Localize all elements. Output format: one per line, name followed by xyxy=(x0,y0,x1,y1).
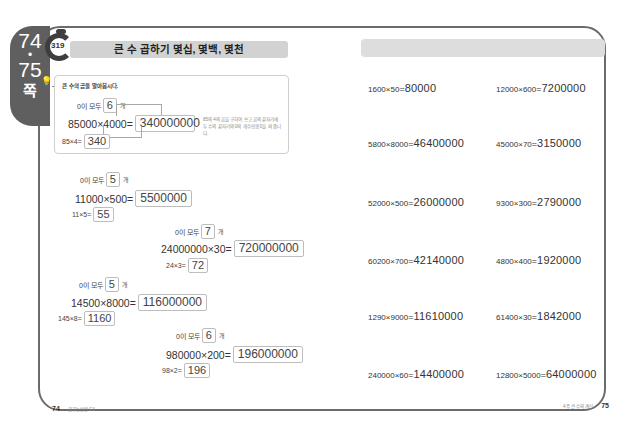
answer-item: 1290×9000=11610000 xyxy=(368,306,463,324)
result-box[interactable]: 720000000 xyxy=(234,240,304,257)
count-unit: 개 xyxy=(218,227,224,236)
zero-count-box[interactable]: 7 xyxy=(201,224,215,239)
example-result-box[interactable]: 340000000 xyxy=(135,115,195,132)
zero-count-box[interactable]: 5 xyxy=(105,277,119,292)
zero-count-box[interactable]: 6 xyxy=(103,98,117,113)
answer-lhs: 1600×50 xyxy=(368,85,399,94)
answer-lhs: 45000×70 xyxy=(496,140,532,149)
zero-count-label: 0이 모두 xyxy=(77,101,101,111)
answer-lhs: 12000×600 xyxy=(496,85,536,94)
answer-rhs: 11610000 xyxy=(414,310,464,322)
count-unit: 개 xyxy=(122,280,128,289)
zero-count-box[interactable]: 6 xyxy=(202,328,216,343)
problem-2-base-row: 24×3= 72 xyxy=(166,258,210,273)
answer-lhs: 5800×8000 xyxy=(368,140,408,149)
result-box[interactable]: 5500000 xyxy=(135,190,192,207)
footer-right: 4주 큰 수의 계산 75 xyxy=(563,402,609,409)
answer-rhs: 80000 xyxy=(405,82,437,94)
problem-expression: 24000000×30= xyxy=(161,243,232,255)
answer-item: 5800×8000=46400000 xyxy=(368,133,464,151)
problem-3-base-row: 145×8= 1160 xyxy=(58,311,117,326)
problem-1-base-row: 11×5= 55 xyxy=(72,207,116,222)
chapter-title: 4주 큰 수의 계산 xyxy=(563,404,593,409)
count-unit: 개 xyxy=(219,331,225,340)
answer-lhs: 61400×30 xyxy=(496,313,532,322)
left-page-number: 74 xyxy=(52,405,60,412)
zero-count-box[interactable]: 5 xyxy=(106,172,120,187)
answer-lhs: 240000×60 xyxy=(368,371,408,380)
answer-rhs: 1842000 xyxy=(537,310,581,322)
answer-item: 60200×700=42140000 xyxy=(368,250,464,268)
guide-prompt: 큰 수의 곱을 알아봅시다. xyxy=(62,82,118,90)
lesson-number: 319 xyxy=(51,41,64,50)
count-unit: 개 xyxy=(123,175,129,184)
answer-rhs: 26000000 xyxy=(414,196,465,208)
guide-note: 85와 4의 곱을 구하여 쓰고 곱의 끝자리에 두 수의 끝자리의 0의 개수… xyxy=(203,116,283,137)
answer-rhs: 64000000 xyxy=(546,368,597,380)
problem-expression: 11000×500= xyxy=(75,193,133,205)
answer-lhs: 12800×5000 xyxy=(496,371,541,380)
answer-rhs: 46400000 xyxy=(414,137,465,149)
base-expression: 145×8= xyxy=(58,315,82,322)
problem-4-expression-row: 980000×200= 196000000 xyxy=(166,346,305,363)
answer-lhs: 9300×300 xyxy=(496,199,532,208)
example-base-result-box[interactable]: 340 xyxy=(84,134,110,149)
base-expression: 24×3= xyxy=(166,262,186,269)
answer-item: 9300×300=2790000 xyxy=(496,192,581,210)
answer-item: 240000×60=14400000 xyxy=(368,364,464,382)
answer-item: 4800×400=1920000 xyxy=(496,250,581,268)
zero-count-label: 0이 모두 xyxy=(79,280,103,290)
answer-rhs: 2790000 xyxy=(537,196,581,208)
problem-3-zero-row: 0이 모두 5 개 xyxy=(79,277,128,292)
problem-2-expression-row: 24000000×30= 720000000 xyxy=(161,240,306,257)
result-box[interactable]: 196000000 xyxy=(233,346,303,363)
answer-lhs: 60200×700 xyxy=(368,257,408,266)
answer-item: 52000×500=26000000 xyxy=(368,192,464,210)
base-expression: 11×5= xyxy=(72,211,91,218)
zero-count-label: 0이 모두 xyxy=(176,331,200,341)
problem-4-zero-row: 0이 모두 6 개 xyxy=(176,328,225,343)
example-base-row: 85×4= 340 xyxy=(62,134,112,149)
problem-1-expression-row: 11000×500= 5500000 xyxy=(75,190,194,207)
problem-1-zero-row: 0이 모두 5 개 xyxy=(80,172,129,187)
lesson-badge: 319 xyxy=(45,33,73,61)
problem-2-zero-row: 0이 모두 7 개 xyxy=(175,224,224,239)
result-box[interactable]: 116000000 xyxy=(138,294,207,311)
answer-lhs: 4800×400 xyxy=(496,257,532,266)
answer-item: 45000×70=3150000 xyxy=(496,133,581,151)
right-page-number: 75 xyxy=(601,402,609,409)
base-result-box[interactable]: 196 xyxy=(184,363,210,378)
answer-rhs: 1920000 xyxy=(537,254,581,266)
right-title-bar xyxy=(361,39,605,57)
base-expression: 98×2= xyxy=(162,367,182,374)
answer-lhs: 52000×500 xyxy=(368,199,408,208)
lesson-title: 큰 수 곱하기 몇십, 몇백, 몇천 xyxy=(70,41,288,58)
zero-count-label: 0이 모두 xyxy=(175,227,199,237)
zero-count-label: 0이 모두 xyxy=(80,175,104,185)
answer-item: 12800×5000=64000000 xyxy=(496,364,597,382)
base-result-box[interactable]: 55 xyxy=(93,207,113,222)
problem-4-base-row: 98×2= 196 xyxy=(162,363,212,378)
badge-cap-icon xyxy=(56,29,66,34)
base-result-box[interactable]: 1160 xyxy=(84,311,116,326)
base-result-box[interactable]: 72 xyxy=(188,258,208,273)
example-base-expression: 85×4= xyxy=(62,138,82,145)
footer-left: 74 꿈꾸는빈칸 C4 xyxy=(52,405,95,412)
problem-expression: 980000×200= xyxy=(166,349,231,361)
answer-item: 1600×50=80000 xyxy=(368,78,436,96)
problem-3-expression-row: 14500×8000= 116000000 xyxy=(71,294,209,311)
answer-rhs: 7200000 xyxy=(542,82,586,94)
answer-rhs: 42140000 xyxy=(414,254,465,266)
problem-expression: 14500×8000= xyxy=(71,297,136,309)
answer-rhs: 3150000 xyxy=(537,137,581,149)
answer-item: 12000×600=7200000 xyxy=(496,78,586,96)
answer-lhs: 1290×9000 xyxy=(368,313,408,322)
book-title: 꿈꾸는빈칸 C4 xyxy=(68,407,95,412)
answer-rhs: 14400000 xyxy=(414,368,465,380)
answer-item: 61400×30=1842000 xyxy=(496,306,581,324)
